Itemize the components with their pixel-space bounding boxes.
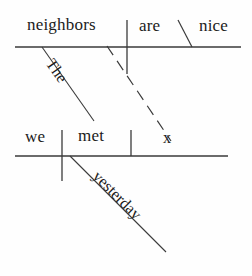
word-subject-we: we (25, 128, 45, 145)
word-subject-neighbors: neighbors (27, 16, 96, 33)
word-object-x: x (163, 130, 171, 146)
word-verb-met: met (78, 127, 104, 144)
sentence-diagram: neighbors are nice The we met x yesterda… (0, 0, 252, 276)
dashed-relative-link (107, 46, 171, 141)
word-complement-nice: nice (199, 17, 228, 34)
predicate-adjective-slant (178, 20, 192, 47)
article-modifier-line (42, 47, 94, 121)
word-verb-are: are (139, 17, 160, 34)
